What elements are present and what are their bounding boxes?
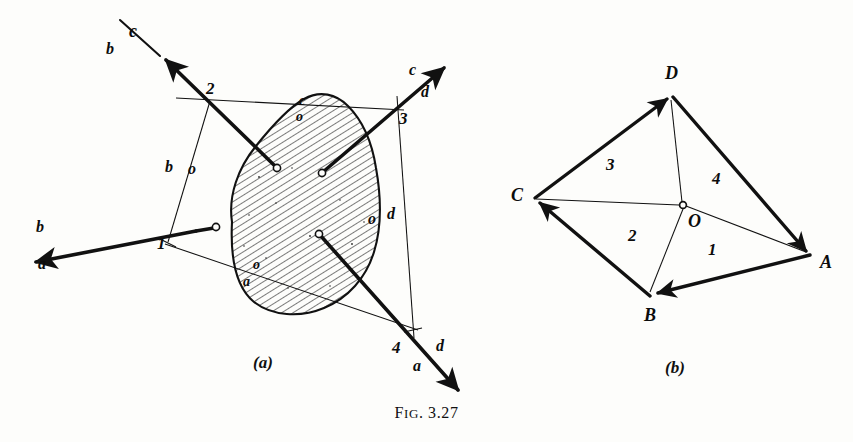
label-blob-a: a xyxy=(243,275,250,289)
force-side-bc xyxy=(540,203,650,296)
force-vector-ab xyxy=(36,223,220,262)
string-d xyxy=(397,96,414,338)
label-ray-4: 4 xyxy=(712,170,721,187)
label-vertex-c: C xyxy=(511,186,523,204)
force-side-ab xyxy=(658,255,810,293)
label-force-ba-upper: b xyxy=(36,219,44,235)
label-point-4: 4 xyxy=(392,339,401,356)
label-force-bc-upper: c xyxy=(129,22,137,40)
label-force-cd-upper: c xyxy=(409,62,416,78)
force-vector-da xyxy=(315,230,458,390)
panel-b-caption: (b) xyxy=(665,358,685,378)
label-blob-o-top: o xyxy=(296,110,303,124)
panel-a-caption: (a) xyxy=(253,353,273,373)
label-point-2: 2 xyxy=(206,80,215,97)
label-string-o-left: o xyxy=(188,161,196,177)
caption-f: F xyxy=(394,404,404,421)
force-polygon xyxy=(535,97,810,296)
label-point-1: 1 xyxy=(157,235,166,252)
rigid-body-blob xyxy=(231,94,380,314)
label-string-b: b xyxy=(165,159,173,175)
application-point-cd xyxy=(318,169,325,176)
label-force-da-upper: d xyxy=(436,338,444,354)
label-force-ba-lower: a xyxy=(38,256,46,272)
force-side-cd xyxy=(535,99,667,198)
figure-3-27: b a c b c d d a b o c o o d o a 1 2 3 4 … xyxy=(0,0,853,442)
figure-canvas xyxy=(0,0,853,442)
label-string-d: d xyxy=(387,206,395,222)
label-ray-1: 1 xyxy=(708,241,717,258)
pole-rays xyxy=(536,100,806,292)
label-string-o-right: o xyxy=(368,211,376,227)
label-ray-3: 3 xyxy=(606,156,615,173)
force-vector-bc xyxy=(120,20,281,172)
ray-od xyxy=(671,100,682,202)
label-blob-o-bottom: o xyxy=(253,258,260,272)
line-of-action-bc xyxy=(120,20,160,56)
label-pole-o: O xyxy=(688,212,701,230)
label-force-bc-lower: b xyxy=(106,41,114,57)
label-blob-c: c xyxy=(299,94,305,108)
ray-oc xyxy=(536,199,679,205)
label-ray-2: 2 xyxy=(628,227,637,244)
application-point-ab xyxy=(212,223,219,230)
ray-ob xyxy=(650,209,683,292)
label-vertex-d: D xyxy=(665,64,678,82)
figure-caption: FIG. 3.27 xyxy=(0,404,853,422)
application-point-bc xyxy=(273,164,280,171)
pole-point-o xyxy=(680,202,687,209)
panel-b-group xyxy=(535,97,810,296)
body-outline xyxy=(231,94,380,314)
label-point-3: 3 xyxy=(399,110,408,127)
label-force-cd-lower: d xyxy=(421,84,429,100)
caption-number: . 3.27 xyxy=(419,404,459,421)
label-vertex-b: B xyxy=(644,306,656,324)
application-point-da xyxy=(315,230,322,237)
label-force-da-lower: a xyxy=(413,358,421,374)
label-vertex-a: A xyxy=(820,253,832,271)
caption-ig: IG xyxy=(404,406,419,421)
